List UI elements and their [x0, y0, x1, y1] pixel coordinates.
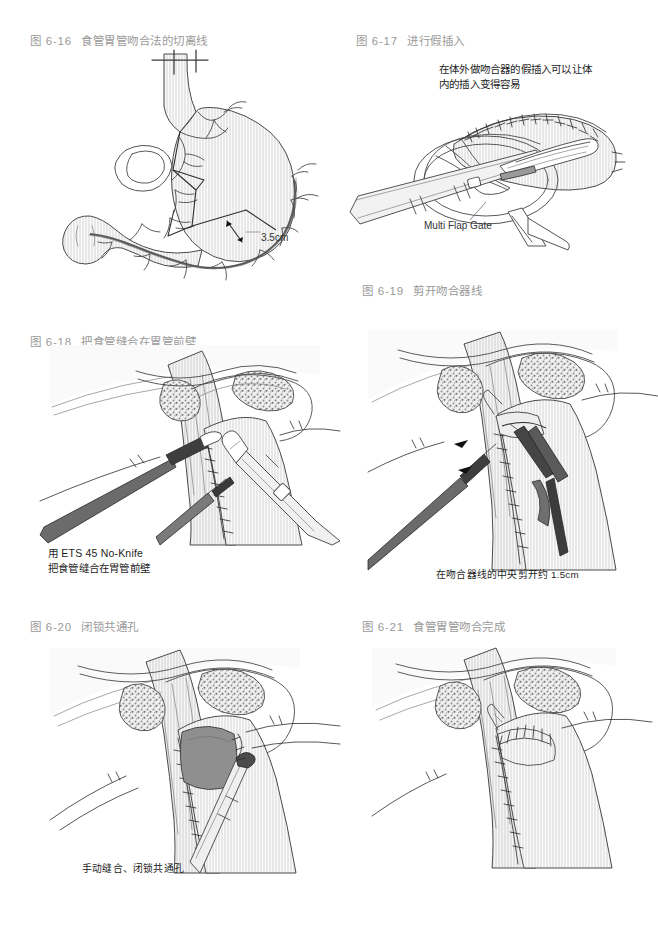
- ets-stapler-note: 用 ETS 45 No-Knife 把食管缝合在胃管前壁: [48, 546, 218, 576]
- incision-length-note: 在吻合器线的中央剪开约 1.5cm: [436, 568, 579, 582]
- figure-caption-6-21: 图 6-21食管胃管吻合完成: [362, 618, 505, 634]
- figure-title-6-17: 进行假插入: [407, 35, 465, 47]
- figure-number-6-16: 图 6-16: [30, 35, 72, 47]
- figure-title-6-20: 闭锁共通孔: [81, 621, 139, 633]
- figure-title-6-16: 食管胃管吻合法的切离线: [81, 35, 208, 47]
- figure-6-19-opening-staple-line: [368, 330, 658, 570]
- figure-title-6-19: 剪开吻合器线: [413, 285, 482, 297]
- figure-6-18-esophagus-suturing: [40, 345, 340, 545]
- label-3-5cm: 3.5cm: [261, 232, 288, 243]
- manual-closure-note: 手动缝合、闭锁共通孔: [82, 862, 184, 876]
- figure-6-20-closing-common-hole: [50, 648, 340, 873]
- figure-number-6-20: 图 6-20: [30, 621, 72, 633]
- figure-caption-6-20: 图 6-20闭锁共通孔: [30, 618, 139, 634]
- figure-number-6-17: 图 6-17: [356, 35, 398, 47]
- multi-flap-gate-leader: [468, 200, 508, 222]
- figure-number-6-19: 图 6-19: [362, 285, 404, 297]
- figure-6-16-stomach-resection-line: [46, 50, 346, 290]
- figure-caption-6-16: 图 6-16食管胃管吻合法的切离线: [30, 32, 208, 48]
- figure-6-21-anastomosis-complete: [372, 648, 652, 868]
- dummy-insertion-note: 在体外做吻合器的假插入可以让体 内的插入变得容易: [439, 62, 629, 92]
- figure-number-6-21: 图 6-21: [362, 621, 404, 633]
- figure-caption-6-17: 图 6-17进行假插入: [356, 32, 465, 48]
- figure-6-17-dummy-insertion: [350, 100, 650, 250]
- figure-caption-6-19: 图 6-19剪开吻合器线: [362, 282, 482, 298]
- figure-title-6-21: 食管胃管吻合完成: [413, 621, 505, 633]
